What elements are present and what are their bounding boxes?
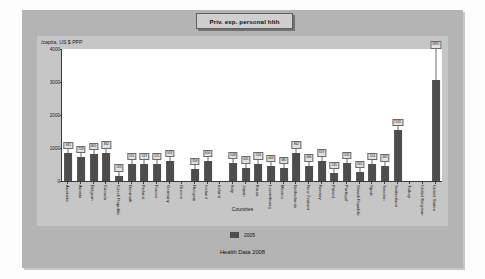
bar-value-label: 245 [330, 162, 339, 169]
bar-value-label: 862 [292, 141, 301, 148]
x-label-japan: Japan [242, 185, 247, 197]
x-label-germany: Germany [166, 185, 171, 203]
bar-group: 358 [191, 49, 199, 181]
bar-mexico [280, 168, 288, 181]
bar-germany [166, 161, 174, 181]
bar-group: 444 [267, 49, 275, 181]
y-tick-mark-2000 [60, 115, 62, 116]
bar-value-label: 593 [165, 150, 174, 157]
bar-value-label: 805 [89, 143, 98, 150]
y-tick-1000: 1000 [50, 146, 60, 151]
x-label-poland: Poland [331, 185, 336, 198]
bar-group: 521 [153, 49, 161, 181]
error-bar [270, 162, 271, 166]
x-tick-mark [105, 182, 106, 184]
bar-value-label: 405 [241, 156, 250, 163]
bar-group: 728 [77, 49, 85, 181]
x-tick-mark [245, 182, 246, 184]
error-bar [283, 164, 284, 168]
bar-value-label: 604 [203, 150, 212, 157]
error-bar [131, 160, 132, 164]
x-tick-mark [397, 182, 398, 184]
bar-group: 380 [280, 49, 288, 181]
x-tick-mark [194, 182, 195, 184]
bar-korea [254, 164, 262, 181]
bar-group: 526 [254, 49, 262, 181]
x-label-greece: Greece [179, 185, 184, 199]
x-tick-mark [156, 182, 157, 184]
bar-group [178, 49, 186, 181]
x-tick-mark [93, 182, 94, 184]
x-tick-mark [257, 182, 258, 184]
x-label-netherlands: Netherlands [293, 185, 298, 208]
chart-legend: 2005 [0, 232, 485, 238]
error-bar [359, 168, 360, 172]
bar-group: 1535 [394, 49, 402, 181]
x-tick-mark [333, 182, 334, 184]
bar-value-label: 514 [368, 153, 377, 160]
error-bar [308, 162, 309, 166]
error-bar [346, 159, 347, 163]
bar-value-label: 728 [76, 146, 85, 153]
error-bar [194, 165, 195, 169]
bar-group [406, 49, 414, 181]
bar-value-label: 380 [279, 157, 288, 164]
bar-group: 862 [102, 49, 110, 181]
bar-portugal [343, 163, 351, 181]
x-tick-mark [181, 182, 182, 184]
bar-italy [229, 163, 237, 181]
bar-iceland [204, 161, 212, 181]
bar-group: 619 [318, 49, 326, 181]
bar-czech-republic [115, 176, 123, 181]
bar-value-label: 444 [266, 155, 275, 162]
bar-group: 163 [115, 49, 123, 181]
x-label-italy: Italy [230, 185, 235, 193]
error-bar [321, 157, 322, 161]
x-tick-mark [384, 182, 385, 184]
error-bar [384, 162, 385, 166]
bar-value-label: 466 [304, 154, 313, 161]
bar-group: 245 [330, 49, 338, 181]
x-label-sweden: Sweden [382, 185, 387, 201]
x-label-norway: Norway [318, 185, 323, 200]
x-label-spain: Spain [369, 185, 374, 196]
x-tick-mark [346, 182, 347, 184]
error-bar [245, 164, 246, 168]
x-label-finland: Finland [141, 185, 146, 199]
x-label-australia: Australia [65, 185, 70, 202]
bar-value-label: 265 [355, 161, 364, 168]
error-bar [93, 150, 94, 154]
error-bar [80, 153, 81, 157]
legend-swatch-2005 [230, 232, 239, 238]
error-bar [68, 149, 69, 153]
x-tick-mark [409, 182, 410, 184]
x-tick-mark [422, 182, 423, 184]
bar-value-label: 1535 [392, 119, 403, 126]
bar-poland [330, 173, 338, 181]
y-tick-mark-4000 [60, 49, 62, 50]
error-bar [232, 159, 233, 163]
bar-group: 535 [343, 49, 351, 181]
bar-group: 405 [242, 49, 250, 181]
x-tick-mark [308, 182, 309, 184]
y-tick-mark-1000 [60, 148, 62, 149]
x-label-france: France [154, 185, 159, 198]
bar-value-label: 526 [254, 152, 263, 159]
bar-hungary [191, 169, 199, 181]
x-tick-mark [371, 182, 372, 184]
bar-group: 593 [166, 49, 174, 181]
bar-group: 3890 [432, 49, 440, 181]
bar-norway [318, 161, 326, 181]
x-tick-mark [232, 182, 233, 184]
bar-value-label: 548 [228, 152, 237, 159]
bar-denmark [128, 164, 136, 181]
bar-value-label: 358 [190, 158, 199, 165]
bar-group: 514 [368, 49, 376, 181]
x-tick-mark [80, 182, 81, 184]
error-bar [169, 157, 170, 161]
x-tick-mark [270, 182, 271, 184]
x-label-denmark: Denmark [128, 185, 133, 202]
x-label-portugal: Portugal [344, 185, 349, 201]
x-label-korea: Korea [255, 185, 260, 196]
x-tick-mark [359, 182, 360, 184]
